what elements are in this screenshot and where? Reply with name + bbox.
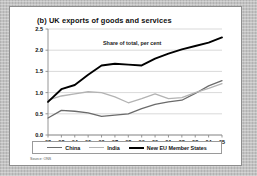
source-note: Source: ONS — [30, 157, 51, 161]
figure-page: (b) UK exports of goods and services Sha… — [0, 0, 257, 176]
svg-text:0.0: 0.0 — [35, 132, 43, 138]
legend-label: China — [65, 145, 80, 151]
legend-label: India — [107, 145, 120, 151]
y-axis-tick-labels: 0.00.51.01.52.02.5 — [35, 26, 48, 138]
svg-text:2.0: 2.0 — [35, 47, 43, 53]
svg-text:1.0: 1.0 — [35, 90, 43, 96]
legend-item: New EU Member States — [129, 145, 207, 151]
svg-text:1.5: 1.5 — [35, 68, 43, 74]
legend-swatch — [47, 147, 62, 148]
legend-item: China — [47, 145, 80, 151]
legend-swatch — [89, 147, 104, 148]
chart-legend: ChinaIndiaNew EU Member States — [32, 141, 222, 154]
legend-item: India — [89, 145, 120, 151]
legend-swatch — [129, 147, 144, 149]
chart-card: (b) UK exports of goods and services Sha… — [9, 6, 242, 166]
svg-text:0.5: 0.5 — [35, 111, 43, 117]
legend-label: New EU Member States — [147, 145, 207, 151]
svg-text:2.5: 2.5 — [35, 26, 43, 32]
data-series — [48, 37, 222, 118]
